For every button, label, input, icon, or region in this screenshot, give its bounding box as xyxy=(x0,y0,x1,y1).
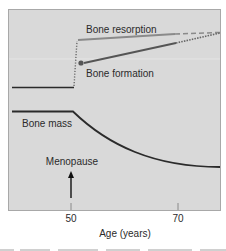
formation-marker xyxy=(78,60,83,65)
tick-label-50: 50 xyxy=(65,213,77,224)
label-bone-mass: Bone mass xyxy=(22,118,72,129)
plot-panel xyxy=(9,10,221,211)
bone-remodeling-chart: Bone resorption Bone formation Bone mass… xyxy=(0,0,226,251)
label-bone-formation: Bone formation xyxy=(86,68,154,79)
label-bone-resorption: Bone resorption xyxy=(86,24,157,35)
x-axis-label: Age (years) xyxy=(99,228,151,239)
label-menopause: Menopause xyxy=(46,156,99,167)
tick-label-70: 70 xyxy=(172,213,184,224)
